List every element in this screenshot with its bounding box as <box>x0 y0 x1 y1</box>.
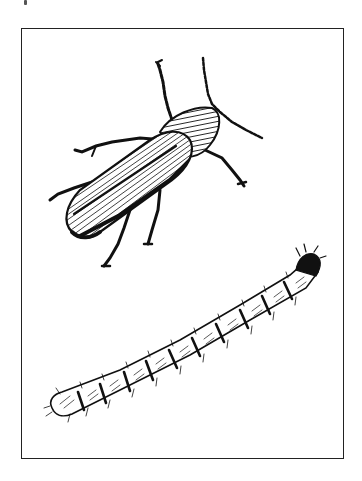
front-right-leg <box>205 150 244 186</box>
beetle-icon <box>50 58 262 266</box>
larva-body <box>51 260 319 415</box>
left-antenna <box>158 64 172 120</box>
larva-icon <box>44 244 326 422</box>
mid-right-leg <box>148 190 160 244</box>
illustration-canvas <box>0 0 362 481</box>
